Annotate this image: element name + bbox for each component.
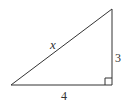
right-angle-marker <box>105 78 112 85</box>
hypotenuse-label: x <box>49 37 56 52</box>
hypotenuse-line <box>11 9 112 85</box>
horizontal-leg-label: 4 <box>61 89 67 101</box>
vertical-leg-label: 3 <box>115 51 121 65</box>
right-triangle <box>11 9 112 85</box>
triangle-diagram: x 3 4 <box>0 0 127 101</box>
